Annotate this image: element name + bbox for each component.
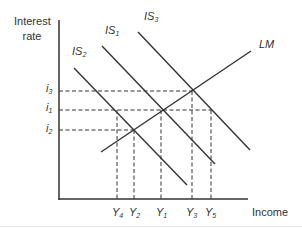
y-axis-label: Interest rate	[14, 15, 50, 42]
x-axis-label: Income	[252, 206, 288, 218]
y5-label: Y5	[205, 206, 216, 222]
is3-label: IS3	[144, 10, 158, 26]
y1-label: Y1	[156, 206, 167, 222]
i3-label: i3	[46, 82, 52, 98]
is3-curve	[138, 32, 250, 150]
is2-curve	[74, 68, 187, 185]
bottom-divider	[0, 226, 302, 227]
is1-label: IS1	[105, 24, 119, 40]
i2-label: i2	[46, 122, 52, 138]
is2-label: IS2	[72, 45, 86, 61]
i1-label: i1	[46, 101, 52, 117]
is1-curve	[102, 46, 215, 164]
y-axis-label-line2: rate	[14, 30, 50, 42]
y4-label: Y4	[112, 206, 123, 222]
lm-label: LM	[259, 38, 274, 50]
y2-label: Y2	[129, 206, 140, 222]
lm-curve	[101, 51, 251, 152]
y3-label: Y3	[186, 206, 197, 222]
y-axis-label-line1: Interest	[14, 15, 50, 27]
